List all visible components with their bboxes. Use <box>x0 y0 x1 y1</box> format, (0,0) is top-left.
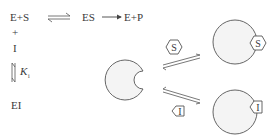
bound-substrate-label: S <box>255 38 261 49</box>
products-label: E+P <box>124 11 143 23</box>
ki-symbol: K <box>19 65 28 77</box>
bound-inhibitor-label: I <box>256 102 259 113</box>
inhibited-complex-label: EI <box>11 99 22 111</box>
substrate-hexagon: S <box>166 40 182 54</box>
inhibitor-shape-label: I <box>178 106 181 117</box>
reactants-label: E+S <box>10 11 29 23</box>
inhibitor-label: I <box>13 42 17 54</box>
upper-equilibrium-arrow-icon <box>163 54 200 70</box>
lower-equilibrium-arrow-icon <box>163 87 200 104</box>
free-enzyme-shape <box>105 60 143 100</box>
vertical-equilibrium-arrow-icon <box>12 63 15 82</box>
substrate-label: S <box>171 42 177 53</box>
bound-substrate-hexagon: S <box>250 36 266 50</box>
ei-enzyme-shape <box>213 90 257 134</box>
competitive-inhibition-diagram: E+S + I ES E+P K i EI S S <box>0 0 276 139</box>
plus-sign: + <box>12 26 18 38</box>
equilibrium-arrow-icon <box>48 13 70 22</box>
ki-subscript: i <box>28 73 30 79</box>
complex-label: ES <box>82 11 95 23</box>
inhibitor-pentagon: I <box>172 106 184 117</box>
